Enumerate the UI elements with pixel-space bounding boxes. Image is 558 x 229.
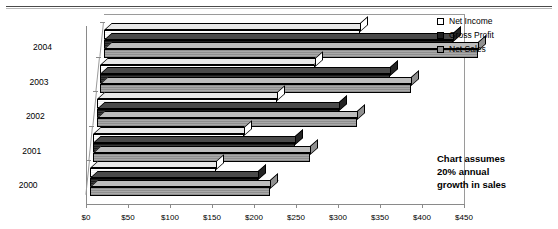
bar-top-face	[104, 33, 460, 40]
legend-swatch-net-sales	[437, 46, 444, 53]
x-tick-8	[422, 204, 423, 208]
annotation-line-1: Chart assumes	[437, 152, 555, 165]
bar-end-cap	[411, 70, 419, 86]
y-tick-2000	[86, 160, 91, 161]
back-wall-top-edge	[104, 14, 464, 15]
x-tick-label-150: $150	[203, 213, 221, 222]
bar-top-face	[104, 23, 368, 30]
y-label-2002: 2002	[11, 111, 45, 121]
y-tick-2004	[100, 22, 105, 23]
y-tick-2003	[96, 57, 101, 58]
bar-end-cap	[295, 129, 303, 145]
header-rule-shadow	[6, 8, 552, 9]
bar-front-face	[97, 118, 357, 127]
plot-area: $0$50$100$150$200$250$300$350$400$450 20…	[36, 14, 428, 200]
legend-item-net-income: Net Income	[437, 16, 494, 26]
bar-top-face	[104, 42, 486, 49]
x-tick-label-0: $0	[82, 213, 91, 222]
bar-top-face	[97, 92, 285, 99]
bar-top-face	[90, 161, 224, 168]
legend-item-net-sales: Net Sales	[437, 44, 494, 54]
bar-2004-net-sales	[104, 49, 478, 58]
chart-legend: Net Income Gross Profit Net Sales	[437, 16, 494, 58]
y-label-2004: 2004	[18, 42, 52, 52]
bar-top-face	[93, 146, 317, 153]
legend-item-gross-profit: Gross Profit	[437, 30, 494, 40]
bar-end-cap	[390, 60, 398, 76]
legend-label-gross-profit: Gross Profit	[449, 30, 494, 40]
bar-top-face	[90, 180, 278, 187]
bar-end-cap	[339, 95, 347, 111]
legend-label-net-income: Net Income	[449, 16, 492, 26]
x-tick-9	[464, 204, 465, 208]
x-tick-label-200: $200	[245, 213, 263, 222]
x-tick-5	[296, 204, 297, 208]
legend-swatch-net-income	[437, 18, 444, 25]
legend-swatch-gross-profit	[437, 32, 444, 39]
x-tick-label-100: $100	[161, 213, 179, 222]
bar-2002-net-sales	[97, 118, 357, 127]
bar-end-cap	[270, 173, 278, 189]
bar-top-face	[97, 111, 365, 118]
annotation-line-3: growth in sales	[437, 178, 555, 191]
header-rule	[6, 6, 552, 7]
x-tick-3	[212, 204, 213, 208]
y-tick-2001	[89, 126, 94, 127]
x-tick-4	[254, 204, 255, 208]
bar-top-face	[97, 102, 347, 109]
x-tick-label-50: $50	[121, 213, 134, 222]
chart-container: $0$50$100$150$200$250$300$350$400$450 20…	[0, 0, 558, 229]
x-tick-1	[128, 204, 129, 208]
y-label-2001: 2001	[7, 146, 41, 156]
x-tick-0	[86, 204, 87, 208]
x-tick-label-350: $350	[371, 213, 389, 222]
bar-top-face	[93, 136, 302, 143]
bar-top-face	[93, 127, 252, 134]
legend-label-net-sales: Net Sales	[449, 44, 486, 54]
y-tick-2002	[93, 91, 98, 92]
x-tick-7	[380, 204, 381, 208]
x-tick-label-300: $300	[329, 213, 347, 222]
bar-top-face	[90, 171, 266, 178]
x-tick-label-400: $400	[413, 213, 431, 222]
bar-end-cap	[357, 104, 365, 120]
x-axis-line	[86, 204, 464, 205]
x-tick-label-250: $250	[287, 213, 305, 222]
y-label-2003: 2003	[14, 77, 48, 87]
chart-annotation: Chart assumes 20% annual growth in sales	[437, 152, 555, 191]
bar-2000-net-sales	[90, 187, 271, 196]
bar-end-cap	[258, 164, 266, 180]
x-tick-label-450: $450	[455, 213, 473, 222]
bar-end-cap	[310, 139, 318, 155]
bar-front-face	[104, 49, 478, 58]
bar-front-face	[90, 187, 271, 196]
x-tick-6	[338, 204, 339, 208]
bar-top-face	[100, 77, 419, 84]
bar-end-cap	[360, 16, 368, 32]
annotation-line-2: 20% annual	[437, 165, 555, 178]
bar-top-face	[100, 67, 398, 74]
bar-top-face	[100, 58, 322, 65]
y-label-2000: 2000	[4, 180, 38, 190]
x-tick-2	[170, 204, 171, 208]
